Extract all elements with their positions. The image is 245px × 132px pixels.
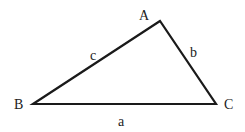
triangle-abc: [33, 21, 216, 104]
side-label-a: a: [118, 114, 125, 129]
side-label-c: c: [90, 48, 96, 63]
side-label-b: b: [190, 45, 197, 60]
vertex-label-b: B: [14, 97, 23, 112]
triangle-diagram: A B C a b c: [0, 0, 245, 132]
vertex-label-a: A: [139, 8, 150, 23]
vertex-label-c: C: [224, 97, 233, 112]
